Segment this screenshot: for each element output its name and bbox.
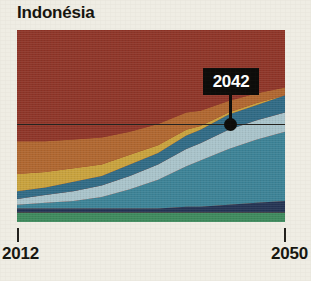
area-band-green-band bbox=[17, 212, 285, 222]
callout-label: 2042 bbox=[213, 73, 250, 90]
axis-tick-start bbox=[17, 228, 19, 242]
callout-dot bbox=[224, 118, 237, 131]
page-title: Indonésia bbox=[17, 3, 95, 23]
axis-label-end: 2050 bbox=[271, 244, 308, 264]
stacked-area-chart bbox=[17, 30, 285, 222]
chart-plot-area bbox=[17, 30, 285, 222]
reference-line bbox=[17, 124, 285, 125]
axis-label-start: 2012 bbox=[2, 244, 39, 264]
callout-2042[interactable]: 2042 bbox=[203, 68, 259, 95]
axis-tick-end bbox=[284, 228, 286, 242]
